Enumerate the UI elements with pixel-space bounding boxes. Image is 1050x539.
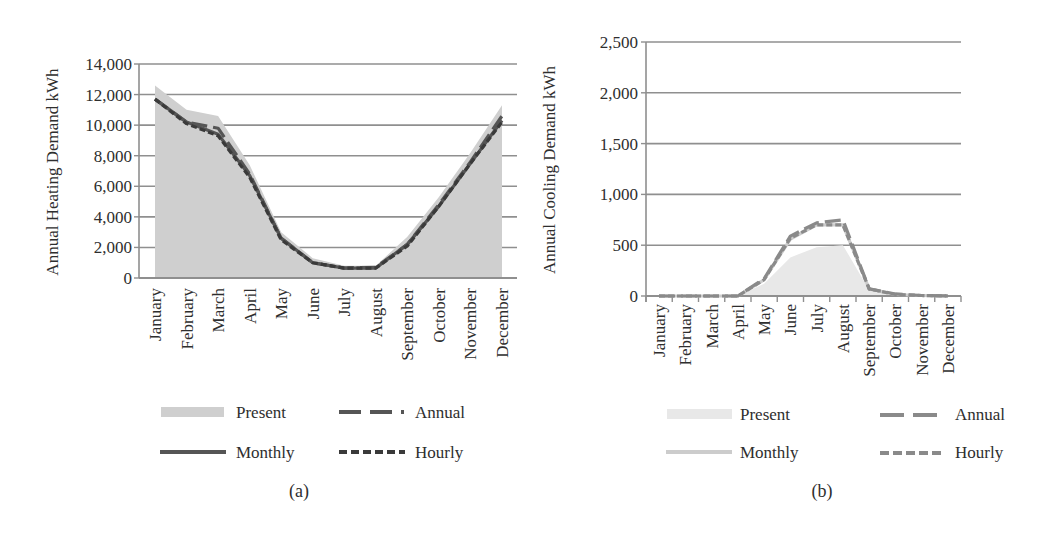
x-tick-labels: JanuaryFebruaryMarchAprilMayJuneJulyAugu… xyxy=(650,304,958,377)
panel-label: (a) xyxy=(289,481,309,502)
present-swatch-icon xyxy=(161,407,224,417)
y-axis-label: Annual Cooling Demand kWh xyxy=(540,65,559,274)
figure: 02,0004,0006,0008,00010,00012,00014,000 … xyxy=(0,0,1050,539)
y-axis-label: Annual Heating Demand kWh xyxy=(43,68,62,276)
x-tick-label: September xyxy=(398,288,417,361)
legend: Present Annual Monthly Hourly xyxy=(666,405,1005,462)
series-present-area xyxy=(155,85,502,278)
legend: Present Annual Monthly Hourly xyxy=(160,403,465,462)
x-tick-label: October xyxy=(886,304,905,359)
legend-item-hourly: Hourly xyxy=(880,443,1004,462)
x-tick-label: July xyxy=(808,304,827,333)
legend-label: Annual xyxy=(415,403,465,422)
series-present-area xyxy=(659,245,948,296)
legend-label: Present xyxy=(740,405,790,424)
legend-label: Monthly xyxy=(740,443,799,462)
x-tick-label: July xyxy=(335,288,354,317)
x-tick-label: October xyxy=(430,288,449,343)
x-tick-label: May xyxy=(755,304,774,336)
y-tick-label: 0 xyxy=(124,269,133,288)
x-tick-label: February xyxy=(676,304,695,366)
y-tick-label: 1,500 xyxy=(600,135,638,154)
y-tick-label: 4,000 xyxy=(94,208,132,227)
legend-item-present: Present xyxy=(161,403,286,422)
y-tick-label: 12,000 xyxy=(85,86,132,105)
legend-item-monthly: Monthly xyxy=(160,443,295,462)
x-tick-label: December xyxy=(939,304,958,374)
y-tick-label: 1,000 xyxy=(600,185,638,204)
legend-label: Monthly xyxy=(236,443,295,462)
x-tick-label: January xyxy=(146,288,165,341)
x-tick-label: September xyxy=(860,304,879,377)
x-tick-labels: JanuaryFebruaryMarchAprilMayJuneJulyAugu… xyxy=(146,288,512,361)
x-tick-label: May xyxy=(272,288,291,320)
legend-item-monthly: Monthly xyxy=(666,443,799,462)
x-tick-label: August xyxy=(834,304,853,353)
x-tick-label: December xyxy=(493,288,512,358)
figure-canvas: 02,0004,0006,0008,00010,00012,00014,000 … xyxy=(0,0,1050,539)
y-tick-label: 500 xyxy=(613,236,639,255)
heating-demand-chart: 02,0004,0006,0008,00010,00012,00014,000 … xyxy=(43,55,517,502)
legend-item-hourly: Hourly xyxy=(339,443,464,462)
series-layer xyxy=(646,220,961,296)
x-tick-label: June xyxy=(304,288,323,319)
legend-item-annual: Annual xyxy=(339,403,465,422)
x-tick-label: January xyxy=(650,304,669,357)
series-layer xyxy=(139,85,517,278)
legend-item-present: Present xyxy=(667,405,790,424)
x-tick-label: April xyxy=(241,288,260,324)
x-tick-label: June xyxy=(781,304,800,335)
legend-item-annual: Annual xyxy=(880,405,1005,424)
y-tick-labels: 02,0004,0006,0008,00010,00012,00014,000 xyxy=(85,55,132,288)
y-tick-labels: 05001,0001,5002,0002,500 xyxy=(600,33,638,306)
y-tick-label: 14,000 xyxy=(85,55,132,74)
x-tick-label: March xyxy=(703,304,722,349)
x-tick-label: November xyxy=(461,288,480,360)
legend-label: Present xyxy=(236,403,286,422)
y-tick-label: 10,000 xyxy=(85,116,132,135)
y-tick-label: 2,500 xyxy=(600,33,638,52)
y-tick-label: 6,000 xyxy=(94,177,132,196)
legend-label: Hourly xyxy=(415,443,464,462)
y-tick-label: 0 xyxy=(630,287,639,306)
x-tick-label: February xyxy=(178,288,197,350)
cooling-demand-chart: 05001,0001,5002,0002,500 Annual Cooling … xyxy=(540,33,1005,502)
x-tick-label: August xyxy=(367,288,386,337)
present-swatch-icon xyxy=(667,409,732,419)
y-tick-label: 2,000 xyxy=(94,238,132,257)
legend-label: Hourly xyxy=(955,443,1004,462)
y-tick-label: 8,000 xyxy=(94,147,132,166)
y-tick-label: 2,000 xyxy=(600,84,638,103)
x-tick-label: March xyxy=(209,288,228,333)
x-tick-label: November xyxy=(913,304,932,376)
legend-label: Annual xyxy=(955,405,1005,424)
x-tick-label: April xyxy=(729,304,748,340)
panel-label: (b) xyxy=(812,481,833,502)
